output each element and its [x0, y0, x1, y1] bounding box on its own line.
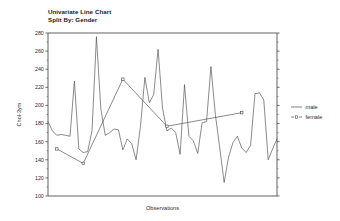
data-point-marker-female: [166, 125, 168, 127]
y-tick-label: 140: [35, 157, 44, 163]
plot-frame: [48, 33, 277, 196]
series-line-female: [57, 79, 242, 163]
univariate-line-chart: Univariate Line Chart Split By: Gender 1…: [0, 0, 340, 221]
plot-canvas: 100120140160180200220240260280 malefemal…: [0, 0, 340, 221]
y-tick-label: 260: [35, 48, 44, 54]
y-axis-title: Chol-3ym: [16, 102, 22, 126]
y-tick-label: 280: [35, 30, 44, 36]
legend-label-male: male: [306, 104, 318, 110]
chart-legend: malefemale: [291, 104, 322, 120]
y-tick-label: 240: [35, 66, 44, 72]
x-axis-title: Observations: [146, 205, 179, 211]
y-tick-label: 100: [35, 193, 44, 199]
data-point-marker-female: [82, 162, 84, 164]
legend-marker-female: [295, 116, 297, 118]
y-tick-label: 180: [35, 120, 44, 126]
series-line-male: [48, 37, 277, 183]
y-tick-label: 160: [35, 139, 44, 145]
y-tick-label: 120: [35, 175, 44, 181]
legend-label-female: female: [306, 114, 323, 120]
data-point-marker-female: [122, 78, 124, 80]
data-point-marker-female: [56, 148, 58, 150]
y-tick-label: 200: [35, 102, 44, 108]
data-series-group: [48, 37, 277, 183]
data-point-marker-female: [241, 111, 243, 113]
y-tick-label: 220: [35, 84, 44, 90]
